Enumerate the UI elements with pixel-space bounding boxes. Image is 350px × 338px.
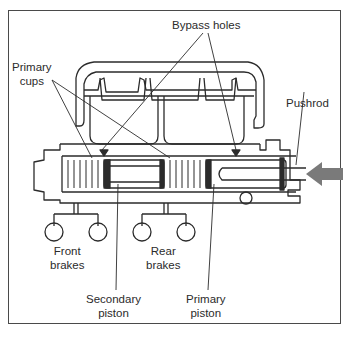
label-primary-piston: Primary piston	[186, 292, 226, 320]
label-primary-cups: Primary cups	[12, 60, 52, 88]
rear-brake-line	[142, 203, 186, 226]
force-arrow-icon	[306, 162, 343, 186]
front-brake-line	[54, 203, 98, 226]
label-rear-brakes: Rear brakes	[146, 244, 181, 272]
leader-secondary	[116, 184, 118, 290]
leader-primary	[208, 184, 214, 290]
pushrod	[219, 168, 306, 180]
leader-cups-1	[52, 80, 92, 158]
label-bypass-holes: Bypass holes	[172, 18, 240, 32]
master-cylinder-drawing	[0, 0, 350, 338]
secondary-piston	[104, 160, 164, 188]
secondary-spring	[68, 160, 98, 188]
primary-spring	[170, 160, 200, 188]
reservoir-cap-inner	[84, 78, 256, 92]
cylinder-bore	[62, 156, 296, 192]
leader-bypass-2	[208, 33, 236, 150]
primary-piston	[206, 160, 286, 188]
label-pushrod: Pushrod	[286, 96, 329, 110]
label-front-brakes: Front brakes	[50, 244, 85, 272]
label-secondary-piston: Secondary piston	[86, 292, 141, 320]
